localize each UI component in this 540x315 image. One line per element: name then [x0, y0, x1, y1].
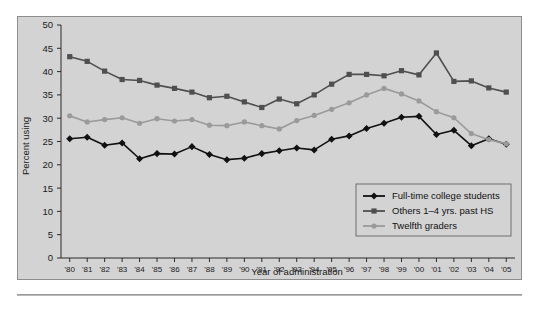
x-tick-label: '02 — [449, 265, 460, 274]
data-point — [504, 141, 509, 146]
y-tick-label: 20 — [42, 159, 53, 170]
y-tick-label: 15 — [42, 183, 53, 194]
figure-container: 05101520253035404550 '80'81'82'83'84'85'… — [0, 0, 540, 315]
data-point — [329, 82, 334, 87]
y-tick-label: 50 — [42, 19, 53, 30]
x-tick-label: '85 — [152, 265, 163, 274]
data-point — [504, 90, 509, 95]
legend-label: Others 1–4 yrs. past HS — [392, 205, 493, 216]
y-tick-label: 10 — [42, 206, 53, 217]
chart-legend: Full-time college studentsOthers 1–4 yrs… — [356, 184, 511, 236]
data-point — [207, 95, 212, 100]
data-point — [329, 107, 334, 112]
data-point — [277, 96, 282, 101]
x-tick-label: '99 — [396, 265, 407, 274]
y-tick-label: 5 — [48, 229, 53, 240]
data-point — [294, 118, 299, 123]
x-tick-label: '03 — [466, 265, 477, 274]
y-tick-label: 35 — [42, 89, 53, 100]
y-tick-label: 40 — [42, 66, 53, 77]
data-point — [364, 92, 369, 97]
data-point — [451, 79, 456, 84]
x-tick-label: '81 — [82, 265, 93, 274]
x-tick-label: '90 — [239, 265, 250, 274]
data-point — [312, 92, 317, 97]
data-point — [66, 135, 73, 142]
x-tick-label: '05 — [501, 265, 512, 274]
data-point — [469, 78, 474, 83]
data-point — [276, 147, 283, 154]
data-point — [416, 98, 421, 103]
data-point — [137, 78, 142, 83]
data-point — [242, 119, 247, 124]
data-point — [154, 116, 159, 121]
x-tick-label: '82 — [99, 265, 110, 274]
x-tick-label: '80 — [65, 265, 76, 274]
data-point — [469, 131, 474, 136]
data-point — [381, 120, 388, 127]
data-point — [294, 101, 299, 106]
x-tick-label: '89 — [222, 265, 233, 274]
x-tick-label: '88 — [204, 265, 215, 274]
data-point — [102, 69, 107, 74]
data-point — [85, 119, 90, 124]
data-point — [398, 114, 405, 121]
data-point — [172, 118, 177, 123]
x-tick-label: '98 — [379, 265, 390, 274]
data-point — [224, 123, 229, 128]
x-tick-label: '86 — [169, 265, 180, 274]
data-point — [189, 117, 194, 122]
x-tick-label: '87 — [187, 265, 198, 274]
data-point — [67, 113, 72, 118]
data-point — [486, 85, 491, 90]
data-point — [347, 72, 352, 77]
x-tick-label: '97 — [361, 265, 372, 274]
data-point — [399, 91, 404, 96]
x-tick-label: '96 — [344, 265, 355, 274]
series-2 — [67, 50, 509, 110]
data-point — [137, 121, 142, 126]
y-axis-tick-labels: 05101520253035404550 — [42, 19, 53, 263]
data-point — [258, 150, 265, 157]
data-point — [416, 72, 421, 77]
y-tick-label: 45 — [42, 43, 53, 54]
data-point — [434, 50, 439, 55]
data-point — [101, 142, 108, 149]
data-point — [451, 115, 456, 120]
data-point — [312, 113, 317, 118]
data-point — [311, 146, 318, 153]
data-point — [102, 117, 107, 122]
data-point — [346, 132, 353, 139]
legend-label: Twelfth graders — [392, 220, 457, 231]
data-point — [206, 151, 213, 158]
data-point — [399, 68, 404, 73]
x-tick-label: '01 — [431, 265, 442, 274]
data-point — [188, 143, 195, 150]
data-point — [277, 126, 282, 131]
data-point — [223, 156, 230, 163]
data-point — [347, 100, 352, 105]
data-point — [207, 123, 212, 128]
data-point — [67, 54, 72, 59]
bottom-divider-rule — [17, 294, 522, 296]
data-point — [85, 59, 90, 64]
data-point — [434, 109, 439, 114]
data-point — [84, 134, 91, 141]
y-tick-label: 25 — [42, 136, 53, 147]
data-point — [189, 90, 194, 95]
data-point — [259, 105, 264, 110]
data-point — [259, 123, 264, 128]
data-point — [241, 155, 248, 162]
data-point — [381, 73, 386, 78]
line-chart: 05101520253035404550 '80'81'82'83'84'85'… — [17, 16, 522, 280]
data-point — [120, 115, 125, 120]
x-tick-label: '83 — [117, 265, 128, 274]
data-point — [364, 72, 369, 77]
y-tick-label: 30 — [42, 113, 53, 124]
data-point — [293, 145, 300, 152]
data-point — [154, 150, 161, 157]
data-point — [328, 136, 335, 143]
data-point — [120, 77, 125, 82]
y-tick-label: 0 — [48, 252, 53, 263]
y-axis-title: Percent using — [20, 117, 31, 175]
